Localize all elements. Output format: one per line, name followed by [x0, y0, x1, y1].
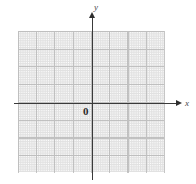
origin-label: 0: [83, 106, 89, 117]
x-axis-line: [14, 103, 179, 104]
arrow-right-icon: [176, 100, 182, 106]
coordinate-plane-figure: x y 0: [0, 0, 196, 184]
x-axis-label: x: [185, 99, 189, 108]
arrow-up-icon: [89, 12, 95, 18]
y-axis-line: [92, 18, 93, 180]
y-axis-label: y: [94, 3, 98, 12]
